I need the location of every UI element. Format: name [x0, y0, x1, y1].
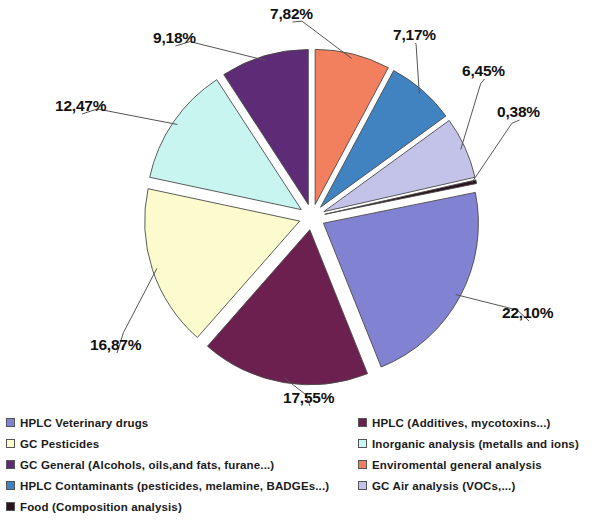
chart-legend: HPLC Veterinary drugsGC PesticidesGC Gen… — [0, 412, 616, 523]
legend-item: GC Air analysis (VOCs,...) — [358, 475, 616, 496]
legend-item: GC General (Alcohols, oils,and fats, fur… — [6, 454, 356, 475]
legend-item-label: GC Pesticides — [20, 438, 99, 450]
legend-item-label: Food (Composition analysis) — [20, 501, 182, 513]
pie-percentage-label: 0,38% — [497, 103, 540, 121]
pie-chart-area: 7,82%7,17%6,45%0,38%22,10%17,55%16,87%12… — [0, 0, 616, 412]
legend-item-label: Enviromental general analysis — [372, 459, 542, 471]
legend-color-swatch — [358, 481, 367, 490]
legend-item-label: HPLC Contaminants (pesticides, melamine,… — [20, 480, 329, 492]
pie-percentage-label: 16,87% — [90, 336, 141, 354]
legend-color-swatch — [358, 460, 367, 469]
leader-line — [461, 79, 485, 149]
legend-item: GC Pesticides — [6, 433, 356, 454]
pie-percentage-label: 22,10% — [502, 304, 553, 322]
pie-percentage-label: 17,55% — [283, 389, 334, 407]
pie-percentage-label: 7,17% — [393, 26, 436, 44]
pie-percentage-label: 12,47% — [55, 97, 106, 115]
legend-item: Food (Composition analysis) — [6, 496, 356, 517]
legend-item: Enviromental general analysis — [358, 454, 616, 475]
legend-item: Inorganic analysis (metalls and ions) — [358, 433, 616, 454]
legend-color-swatch — [6, 439, 15, 448]
legend-item: HPLC Veterinary drugs — [6, 412, 356, 433]
legend-item: HPLC Contaminants (pesticides, melamine,… — [6, 475, 356, 496]
leader-line — [472, 120, 520, 183]
pie-percentage-label: 9,18% — [153, 29, 196, 47]
legend-color-swatch — [358, 439, 367, 448]
legend-item-label: Inorganic analysis (metalls and ions) — [372, 438, 579, 450]
legend-column-right: HPLC (Additives, mycotoxins...)Inorganic… — [358, 412, 616, 496]
legend-item: HPLC (Additives, mycotoxins...) — [358, 412, 616, 433]
pie-percentage-label: 6,45% — [462, 62, 505, 80]
pie-slice-group — [145, 49, 479, 384]
legend-color-swatch — [6, 481, 15, 490]
legend-color-swatch — [6, 418, 15, 427]
legend-item-label: GC Air analysis (VOCs,...) — [372, 480, 515, 492]
legend-item-label: HPLC (Additives, mycotoxins...) — [372, 417, 550, 429]
pie-percentage-label: 7,82% — [270, 5, 313, 23]
legend-color-swatch — [6, 460, 15, 469]
legend-color-swatch — [358, 418, 367, 427]
legend-color-swatch — [6, 502, 15, 511]
legend-column-left: HPLC Veterinary drugsGC PesticidesGC Gen… — [6, 412, 356, 517]
legend-item-label: GC General (Alcohols, oils,and fats, fur… — [20, 459, 274, 471]
legend-item-label: HPLC Veterinary drugs — [20, 417, 148, 429]
